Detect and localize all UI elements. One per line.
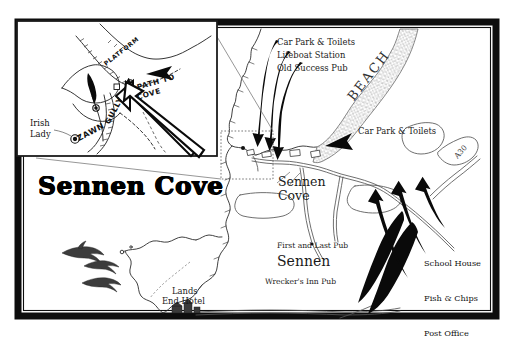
callout-car-park-toilets-mid: Car Park & Toilets bbox=[358, 127, 436, 136]
amenity-school-house: School House bbox=[424, 258, 481, 270]
callout-car-park-toilets-top: Car Park & Toilets bbox=[277, 38, 355, 47]
amenities-list: School House Fish & Chips Post Office Pe… bbox=[424, 235, 481, 343]
callout-old-success-pub: Old Success Pub bbox=[277, 64, 348, 73]
page-title: Sennen Cove bbox=[38, 172, 224, 199]
label-sennen-cove-area-line2: Cove bbox=[278, 189, 310, 203]
inset-label-irish-lady-line1: Irish bbox=[30, 119, 50, 128]
callout-lifeboat-station: Lifeboat Station bbox=[277, 51, 345, 60]
label-wreckers-inn-pub: Wrecker's Inn Pub bbox=[265, 278, 336, 286]
label-first-and-last-pub: First and Last Pub bbox=[277, 242, 348, 250]
label-sennen-village: Sennen bbox=[277, 254, 330, 269]
label-lands-end-hotel-line2: End Hotel bbox=[162, 297, 205, 306]
inset-label-irish-lady-line2: Lady bbox=[30, 130, 51, 139]
label-sennen-cove-area-line1: Sennen bbox=[278, 175, 326, 189]
amenity-post-office: Post Office bbox=[424, 328, 481, 340]
amenity-fish-and-chips: Fish & Chips bbox=[424, 293, 481, 305]
label-lands-end-hotel-line1: Lands bbox=[172, 287, 198, 296]
map-canvas: Sennen Cove Sennen Cove BEACH Car Park &… bbox=[0, 0, 512, 343]
